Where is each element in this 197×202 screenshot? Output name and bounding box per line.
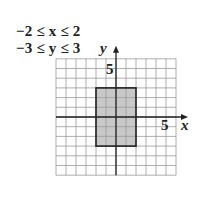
- x-tick-label: 5: [161, 117, 169, 134]
- y-tick-label: 5: [106, 61, 114, 78]
- coordinate-grid: [0, 0, 197, 202]
- y-axis-label: y: [100, 40, 107, 57]
- x-axis-label: x: [181, 117, 189, 134]
